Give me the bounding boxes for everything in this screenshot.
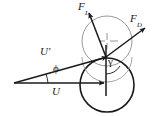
velocity-label: U <box>52 86 60 97</box>
contact-point-marker <box>105 56 107 58</box>
phi-angle-arc <box>46 74 48 83</box>
gamma-angle-label: γ <box>108 56 113 67</box>
lift-force-arrow <box>89 13 106 57</box>
drag-force-subscript: D <box>137 21 142 28</box>
rotation-arc <box>82 57 132 82</box>
lift-force-label: FL <box>78 1 89 15</box>
phi-angle-label: ϕ <box>53 63 59 74</box>
figure-container: FL FD U' ϕ U γ <box>0 0 160 116</box>
gamma-angle-arc <box>106 66 120 74</box>
relative-velocity-label: U' <box>40 46 50 57</box>
drag-force-arrow <box>106 28 145 57</box>
drag-force-label: FD <box>130 13 142 27</box>
lift-force-subscript: L <box>85 9 89 16</box>
u-prime-velocity-arrow <box>14 57 107 83</box>
